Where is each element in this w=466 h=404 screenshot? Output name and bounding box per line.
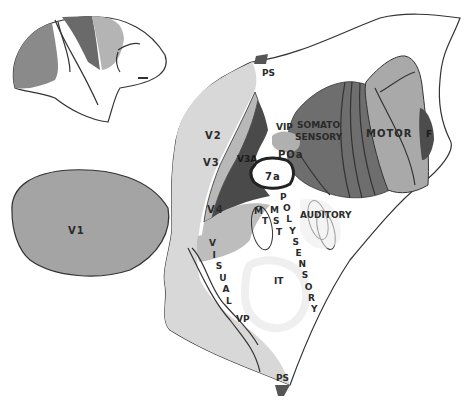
label-somato: SOMATO	[297, 120, 340, 130]
diagram-canvas: V1 PS PS F	[0, 0, 466, 404]
polysensory-letter: S	[292, 237, 298, 247]
label-poa: POa	[278, 149, 304, 160]
label-v4: V4	[207, 204, 224, 215]
flat-map: PS PS F V2 V3 V3A V4 VIP POa 7	[164, 14, 460, 396]
polysensory-letter: N	[299, 259, 307, 269]
label-vip: VIP	[276, 122, 293, 132]
label-v1: V1	[68, 225, 85, 236]
label-mst-s: S	[273, 216, 279, 226]
ps-top-marker	[254, 54, 268, 64]
visual-letter: S	[216, 261, 222, 271]
cortical-map-diagram: V1 PS PS F	[0, 0, 466, 404]
label-mst-m: M	[270, 205, 279, 215]
visual-letter: I	[212, 250, 215, 260]
polysensory-letter: P	[280, 192, 287, 202]
polysensory-letter: L	[286, 214, 292, 224]
ps-bottom-marker	[275, 385, 290, 396]
visual-letter: V	[209, 238, 216, 248]
label-7a: 7a	[265, 171, 281, 182]
label-ps-bottom: PS	[276, 373, 289, 383]
area-v1: V1	[12, 170, 169, 276]
polysensory-letter: S	[302, 270, 308, 280]
inset-occipital-region	[13, 23, 58, 89]
visual-letter: A	[223, 284, 230, 294]
polysensory-letter: O	[305, 282, 313, 292]
polysensory-letter: Y	[310, 304, 318, 314]
visual-letter: U	[219, 273, 226, 283]
polysensory-letter: E	[296, 248, 302, 258]
polysensory-letter: R	[308, 293, 315, 303]
label-v2: V2	[205, 130, 222, 141]
label-mt-m: M	[254, 206, 263, 216]
inset-brain	[13, 16, 166, 122]
polysensory-letter: Y	[288, 226, 296, 236]
label-motor: MOTOR	[366, 128, 412, 139]
label-auditory: AUDITORY	[300, 210, 352, 220]
v1-region	[12, 170, 169, 276]
label-sensory: SENSORY	[295, 132, 343, 142]
label-ps-top: PS	[262, 68, 275, 78]
label-vp: VP	[236, 314, 250, 324]
polysensory-letter: O	[283, 203, 291, 213]
label-v3: V3	[203, 157, 220, 168]
label-it: IT	[274, 276, 284, 286]
label-mt-t: T	[262, 216, 269, 226]
visual-letter: L	[226, 296, 232, 306]
label-mst-t: T	[276, 227, 283, 237]
label-v3a: V3A	[237, 154, 257, 164]
label-frontal: F	[426, 129, 432, 139]
